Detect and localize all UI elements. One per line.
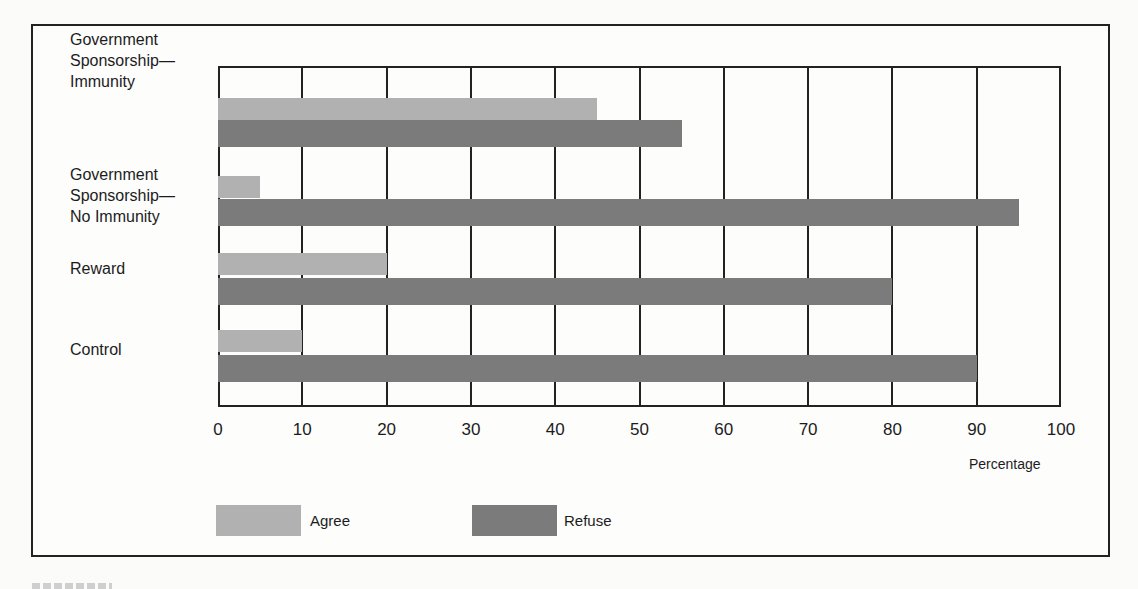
category-label-gov-immunity: Government Sponsorship— Immunity bbox=[70, 29, 175, 92]
x-tick-label: 70 bbox=[799, 420, 818, 440]
x-tick-label: 0 bbox=[213, 420, 222, 440]
bar-agree bbox=[218, 176, 260, 198]
x-tick-label: 50 bbox=[630, 420, 649, 440]
x-tick-label: 60 bbox=[714, 420, 733, 440]
bar-refuse bbox=[218, 278, 892, 305]
x-tick-label: 100 bbox=[1047, 420, 1075, 440]
category-label-gov-no-immunity: Government Sponsorship— No Immunity bbox=[70, 164, 175, 227]
x-tick-label: 40 bbox=[546, 420, 565, 440]
x-tick-label: 80 bbox=[883, 420, 902, 440]
x-tick-label: 10 bbox=[293, 420, 312, 440]
bar-refuse bbox=[218, 355, 977, 382]
bar-agree bbox=[218, 330, 302, 352]
x-axis-label: Percentage bbox=[969, 456, 1041, 472]
bar-agree bbox=[218, 253, 387, 275]
x-tick-label: 30 bbox=[461, 420, 480, 440]
legend-swatch-refuse bbox=[472, 505, 557, 536]
x-tick-label: 90 bbox=[967, 420, 986, 440]
category-label-control: Control bbox=[70, 339, 122, 360]
figure-caption-cropped bbox=[32, 583, 112, 589]
legend-swatch-agree bbox=[216, 505, 301, 536]
legend-label-agree: Agree bbox=[310, 512, 350, 529]
category-label-reward: Reward bbox=[70, 258, 125, 279]
bar-agree bbox=[218, 98, 597, 120]
legend-label-refuse: Refuse bbox=[564, 512, 612, 529]
bar-refuse bbox=[218, 199, 1019, 226]
bar-refuse bbox=[218, 120, 682, 147]
x-tick-label: 20 bbox=[377, 420, 396, 440]
